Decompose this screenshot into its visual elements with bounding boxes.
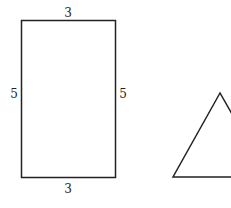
rectangle-shape [22,21,116,178]
diagram-canvas: 3 5 5 3 [0,0,231,208]
rectangle-right-label: 5 [119,87,127,101]
diagram-svg: 3 5 5 3 [0,0,231,208]
rectangle-bottom-label: 3 [64,182,72,196]
rectangle-top-label: 3 [64,6,72,20]
rectangle-left-label: 5 [10,87,18,101]
triangle-shape [173,93,231,177]
